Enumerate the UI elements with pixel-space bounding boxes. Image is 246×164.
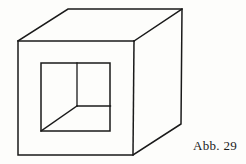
front-face-fill (18, 41, 134, 155)
figure-caption: Abb. 29 (193, 138, 237, 154)
front-face-right-edge (133, 41, 134, 155)
figure-container: Abb. 29 (0, 0, 246, 164)
